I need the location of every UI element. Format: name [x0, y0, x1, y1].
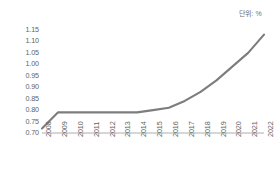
x-axis-tick-label: 2013	[124, 121, 131, 137]
x-axis-tick-labels: 2008200920102011201220132014201520162017…	[0, 0, 274, 170]
x-axis-tick-label: 2012	[109, 121, 116, 137]
x-axis-tick-label: 2016	[172, 121, 179, 137]
x-axis-tick-label: 2019	[220, 121, 227, 137]
plot-area: 0.700.750.800.850.900.951.001.051.101.15…	[0, 0, 274, 170]
x-axis-tick-label: 2021	[251, 121, 258, 137]
x-axis-tick-label: 2017	[188, 121, 195, 137]
chart-container: 단위: % 0.700.750.800.850.900.951.001.051.…	[0, 0, 274, 170]
x-axis-tick-label: 2018	[204, 121, 211, 137]
x-axis-tick-label: 2008	[45, 121, 52, 137]
x-axis-tick-label: 2015	[156, 121, 163, 137]
x-axis-tick-label: 2020	[235, 121, 242, 137]
x-axis-tick-label: 2022	[267, 121, 274, 137]
x-axis-tick-label: 2009	[61, 121, 68, 137]
x-axis-tick-label: 2010	[77, 121, 84, 137]
x-axis-tick-label: 2014	[140, 121, 147, 137]
x-axis-tick-label: 2011	[93, 122, 100, 137]
